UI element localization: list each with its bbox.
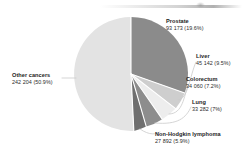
pie-label-prostate-value: 93 173 (19.6%) xyxy=(166,25,204,31)
pie-label-colorectum: Colorectum 34 060 (7.2%) xyxy=(186,76,221,90)
pie-label-lung-value: 33 282 (7%) xyxy=(192,106,222,112)
pie-label-liver: Liver 45 142 (9.5%) xyxy=(196,53,231,67)
pie-label-other-cancers-value: 242 204 (50.9%) xyxy=(12,79,53,85)
pie-chart-figure: Prostate 93 173 (19.6%) Liver 45 142 (9.… xyxy=(0,0,242,155)
pie-label-prostate-name: Prostate xyxy=(166,18,204,25)
pie-slice-other-cancers[interactable] xyxy=(74,17,134,131)
pie-label-non-hodgkin-lymphoma-name: Non-Hodgkin lymphoma xyxy=(155,131,221,138)
pie-label-liver-name: Liver xyxy=(196,53,231,60)
pie-label-other-cancers: Other cancers 242 204 (50.9%) xyxy=(12,72,53,86)
pie-label-other-cancers-name: Other cancers xyxy=(12,72,53,79)
pie-label-non-hodgkin-lymphoma: Non-Hodgkin lymphoma 27 892 (5.9%) xyxy=(155,131,221,145)
pie-label-colorectum-value: 34 060 (7.2%) xyxy=(186,83,221,89)
pie-label-non-hodgkin-lymphoma-value: 27 892 (5.9%) xyxy=(155,138,221,144)
pie-label-colorectum-name: Colorectum xyxy=(186,76,221,83)
pie-label-prostate: Prostate 93 173 (19.6%) xyxy=(166,18,204,32)
pie-label-liver-value: 45 142 (9.5%) xyxy=(196,60,231,66)
pie-label-lung-name: Lung xyxy=(192,99,222,106)
pie-label-lung: Lung 33 282 (7%) xyxy=(192,99,222,113)
